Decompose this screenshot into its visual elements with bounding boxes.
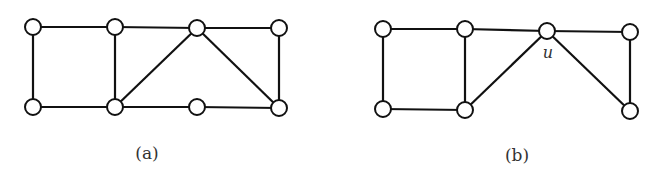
caption-a: (a)	[135, 143, 158, 163]
vertex-b7	[622, 103, 638, 119]
edge-u-b4	[547, 31, 630, 32]
vertex-b2	[457, 21, 473, 37]
vertex-a5	[25, 99, 41, 115]
graph-a-edges	[33, 27, 279, 108]
vertex-label-u: u	[543, 43, 553, 62]
caption-b: (b)	[505, 145, 529, 165]
edge-a2-a3	[115, 27, 197, 28]
edge-a7-a8	[197, 107, 279, 108]
edge-a3-a8	[197, 28, 279, 108]
graph-a: (a)	[25, 19, 287, 163]
edge-b6-u	[465, 31, 547, 110]
vertex-b5	[375, 101, 391, 117]
edge-b5-b6	[383, 109, 465, 110]
vertex-a8	[271, 100, 287, 116]
vertex-a6	[107, 99, 123, 115]
vertex-a7	[189, 99, 205, 115]
vertex-a2	[107, 19, 123, 35]
vertex-a1	[25, 19, 41, 35]
vertex-u	[539, 23, 555, 39]
graph-b: u (b)	[375, 21, 638, 165]
vertex-a3	[189, 20, 205, 36]
vertex-a4	[271, 20, 287, 36]
edge-u-b7	[547, 31, 630, 111]
edge-b2-u	[465, 29, 547, 31]
vertex-b4	[622, 24, 638, 40]
vertex-b6	[457, 102, 473, 118]
edge-a6-a3	[115, 28, 197, 107]
vertex-b1	[375, 21, 391, 37]
graph-b-edges	[383, 29, 630, 111]
graph-figure: (a) u (b)	[0, 0, 661, 178]
graph-b-vertex-labels: u	[543, 43, 553, 62]
